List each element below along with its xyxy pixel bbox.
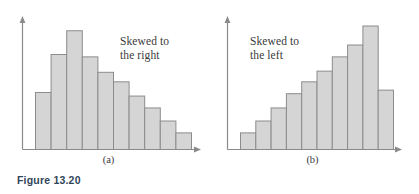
annotation-line-1: Skewed to [250, 35, 299, 47]
y-axis-arrow-b [225, 16, 231, 23]
annotation-skewed-left: Skewed to the left [250, 35, 299, 62]
annotation-skewed-right: Skewed to the right [120, 35, 169, 62]
x-axis-arrow-a [194, 147, 201, 153]
histogram-bar [114, 82, 130, 150]
figure-caption: Figure 13.20 [17, 174, 81, 186]
histogram-bar [129, 96, 145, 149]
histogram-panel-a: Skewed to the right (a) [2, 0, 211, 172]
figure-13-20: Skewed to the right (a) Skewed to the le… [0, 0, 419, 194]
histogram-bar [286, 94, 301, 150]
annotation-line-2: the left [250, 49, 299, 63]
histogram-chart-a [2, 0, 211, 172]
histogram-bar [98, 72, 114, 149]
histogram-bar [145, 108, 161, 150]
histogram-bar [160, 121, 176, 150]
histogram-bar [82, 57, 98, 150]
histogram-bar [302, 82, 317, 150]
histogram-bar [36, 93, 52, 150]
histogram-bar [256, 121, 271, 150]
histogram-chart-b [208, 0, 417, 172]
histogram-bar [332, 57, 347, 150]
histogram-bar [378, 90, 393, 149]
histogram-bar [271, 108, 286, 150]
annotation-line-1: Skewed to [120, 35, 169, 47]
panel-label-a: (a) [2, 154, 213, 165]
histogram-bar [51, 55, 67, 150]
histogram-bar [363, 26, 378, 150]
panel-label-b: (b) [208, 154, 417, 165]
histogram-bar [67, 31, 83, 150]
histogram-bar [317, 71, 332, 149]
x-axis-arrow-b [395, 147, 402, 153]
histogram-bar [348, 45, 363, 150]
histogram-panel-b: Skewed to the left (b) [208, 0, 417, 172]
annotation-line-2: the right [120, 49, 169, 63]
y-axis-arrow-a [20, 16, 26, 23]
histogram-bar [241, 133, 256, 150]
histogram-bar [176, 133, 192, 150]
